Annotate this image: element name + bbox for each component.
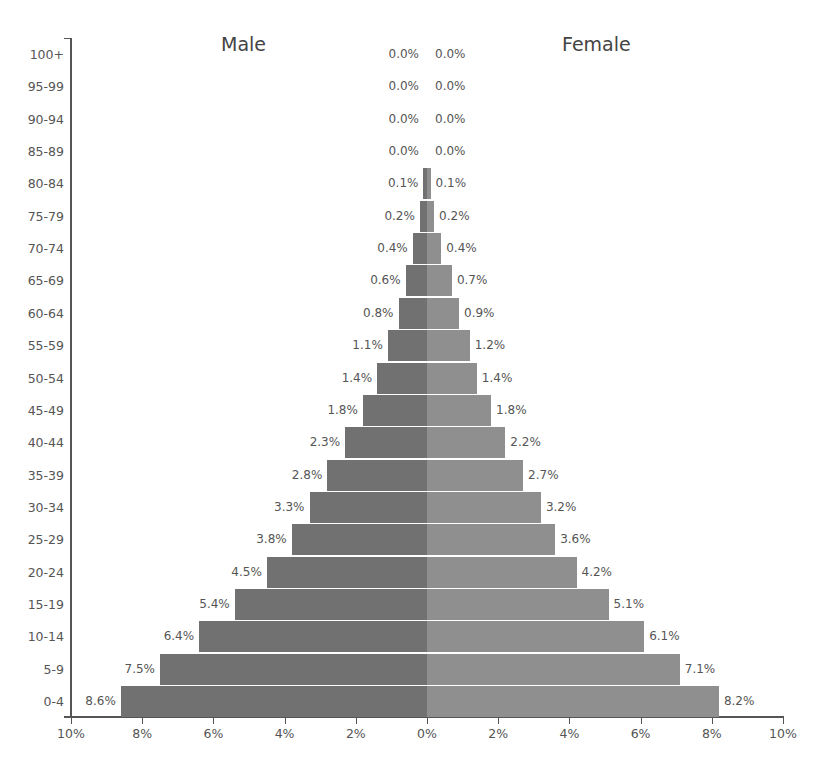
male-value-label: 1.8% <box>327 403 358 417</box>
y-axis-label: 100+ <box>2 47 64 62</box>
female-value-label: 2.2% <box>510 435 541 449</box>
y-axis-label: 70-74 <box>2 241 64 256</box>
male-value-label: 7.5% <box>125 662 156 676</box>
female-value-label: 0.0% <box>435 79 466 93</box>
male-value-label: 0.1% <box>388 176 419 190</box>
female-title: Female <box>562 33 631 55</box>
male-bar <box>399 298 427 329</box>
male-value-label: 0.0% <box>389 79 420 93</box>
female-bar <box>427 265 452 296</box>
male-bar <box>377 363 427 394</box>
male-bar <box>160 654 427 685</box>
y-axis-label: 95-99 <box>2 79 64 94</box>
female-bar <box>427 589 609 620</box>
male-value-label: 0.6% <box>370 273 401 287</box>
y-axis-label: 35-39 <box>2 468 64 483</box>
female-value-label: 0.7% <box>457 273 488 287</box>
male-value-label: 8.6% <box>85 694 116 708</box>
female-value-label: 8.2% <box>724 694 755 708</box>
male-title: Male <box>221 33 266 55</box>
male-value-label: 3.8% <box>256 532 287 546</box>
female-value-label: 1.2% <box>475 338 506 352</box>
male-bar <box>345 427 427 458</box>
male-value-label: 0.0% <box>389 47 420 61</box>
y-axis-line <box>70 38 72 718</box>
x-axis-tick <box>213 718 214 724</box>
x-axis-tick <box>641 718 642 724</box>
female-value-label: 4.2% <box>582 565 613 579</box>
y-axis-label: 60-64 <box>2 306 64 321</box>
female-bar <box>427 492 541 523</box>
female-value-label: 5.1% <box>614 597 645 611</box>
x-axis-tick <box>71 718 72 724</box>
female-value-label: 0.2% <box>439 209 470 223</box>
female-value-label: 3.2% <box>546 500 577 514</box>
female-bar <box>427 686 719 717</box>
y-axis-label: 65-69 <box>2 273 64 288</box>
female-value-label: 0.1% <box>436 176 467 190</box>
female-bar <box>427 233 441 264</box>
female-value-label: 3.6% <box>560 532 591 546</box>
x-axis-label: 8% <box>687 726 737 741</box>
male-bar <box>199 621 427 652</box>
male-value-label: 1.1% <box>352 338 383 352</box>
female-value-label: 0.0% <box>435 47 466 61</box>
female-value-label: 0.0% <box>435 112 466 126</box>
y-axis-label: 45-49 <box>2 403 64 418</box>
y-axis-label: 25-29 <box>2 532 64 547</box>
x-axis-label: 10% <box>758 726 808 741</box>
x-axis-label: 6% <box>616 726 666 741</box>
male-bar <box>413 233 427 264</box>
y-axis-label: 10-14 <box>2 629 64 644</box>
x-axis-label: 2% <box>331 726 381 741</box>
female-bar <box>427 363 477 394</box>
y-axis-label: 15-19 <box>2 597 64 612</box>
x-axis-tick <box>783 718 784 724</box>
x-axis-label: 10% <box>46 726 96 741</box>
male-bar <box>388 330 427 361</box>
female-value-label: 1.8% <box>496 403 527 417</box>
male-bar <box>406 265 427 296</box>
male-bar <box>235 589 427 620</box>
y-axis-label: 50-54 <box>2 371 64 386</box>
y-axis-top-tick <box>64 38 71 39</box>
x-axis-label: 4% <box>544 726 594 741</box>
male-value-label: 6.4% <box>164 629 195 643</box>
male-value-label: 3.3% <box>274 500 305 514</box>
y-axis-label: 85-89 <box>2 144 64 159</box>
male-bar <box>267 557 427 588</box>
female-value-label: 1.4% <box>482 371 513 385</box>
x-axis-tick <box>498 718 499 724</box>
x-axis-tick <box>712 718 713 724</box>
y-axis-label: 30-34 <box>2 500 64 515</box>
female-bar <box>427 557 577 588</box>
male-bar <box>420 201 427 232</box>
y-axis-label: 5-9 <box>2 662 64 677</box>
male-value-label: 0.4% <box>377 241 408 255</box>
y-axis-label: 75-79 <box>2 209 64 224</box>
male-bar <box>310 492 427 523</box>
female-value-label: 0.0% <box>435 144 466 158</box>
female-bar <box>427 460 523 491</box>
male-value-label: 1.4% <box>342 371 373 385</box>
male-value-label: 4.5% <box>231 565 262 579</box>
male-bar <box>292 524 427 555</box>
female-bar <box>427 524 555 555</box>
x-axis-label: 4% <box>260 726 310 741</box>
female-value-label: 2.7% <box>528 468 559 482</box>
female-bar <box>427 298 459 329</box>
male-value-label: 0.8% <box>363 306 394 320</box>
x-axis-tick <box>569 718 570 724</box>
female-bar <box>427 201 434 232</box>
y-axis-label: 90-94 <box>2 112 64 127</box>
female-bar <box>427 621 644 652</box>
y-axis-label: 0-4 <box>2 694 64 709</box>
x-axis-label: 0% <box>402 726 452 741</box>
male-value-label: 0.2% <box>384 209 415 223</box>
y-axis-label: 55-59 <box>2 338 64 353</box>
y-axis-label: 20-24 <box>2 565 64 580</box>
female-value-label: 7.1% <box>685 662 716 676</box>
male-value-label: 0.0% <box>389 112 420 126</box>
female-bar <box>427 427 505 458</box>
female-value-label: 0.9% <box>464 306 495 320</box>
